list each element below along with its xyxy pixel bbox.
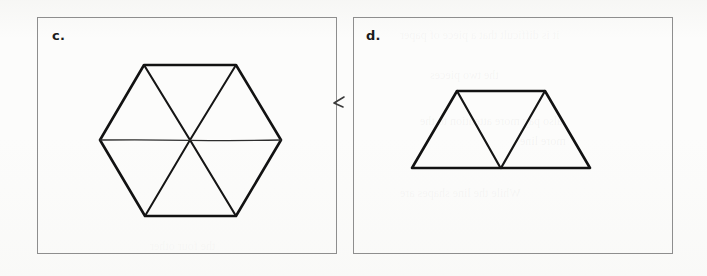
trapezoid-figure (0, 0, 707, 276)
trapezoid-diagonal-left (457, 91, 500, 167)
check-mark-icon (328, 92, 350, 114)
worksheet-page: it is difficult that a piece of paper th… (0, 0, 707, 276)
trapezoid-outline (412, 91, 590, 168)
trapezoid-diagonal-right (501, 91, 545, 168)
